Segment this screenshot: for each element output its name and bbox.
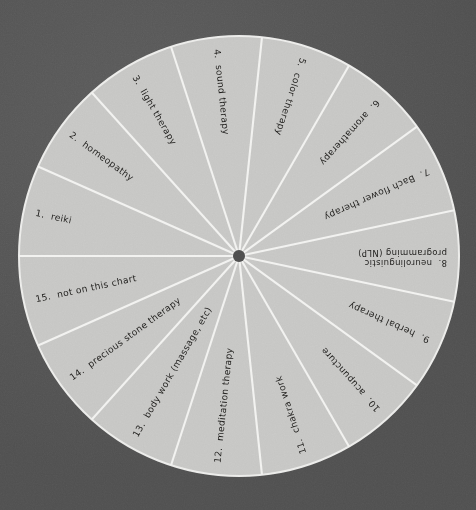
wheel-label-8-line-1: 8. neurolinguistic: [364, 258, 447, 268]
therapy-wheel-page: 1. reiki2. homeopathy3. light therapy4. …: [0, 0, 476, 510]
wheel-label-8-line-2: programming (NLP): [358, 248, 447, 258]
wheel-hub: [233, 250, 245, 262]
wheel-label-8: 8. neurolinguisticprogramming (NLP): [358, 248, 447, 268]
therapy-wheel-diagram: 1. reiki2. homeopathy3. light therapy4. …: [0, 0, 476, 510]
